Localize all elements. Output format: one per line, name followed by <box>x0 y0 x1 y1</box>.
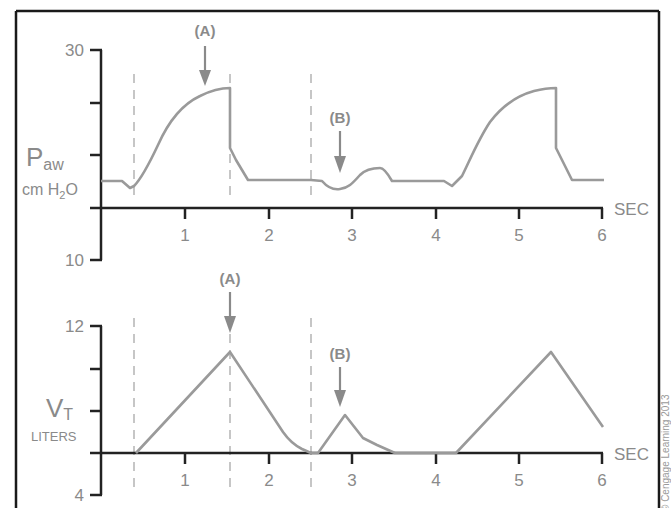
arrow-down-icon <box>334 156 346 173</box>
pressure-y-tick-10: 10 <box>65 251 84 270</box>
copyright-credit: © Cengage Learning 2013 <box>660 394 671 508</box>
phase-dashed-lines <box>134 318 311 488</box>
svg-text:(B): (B) <box>330 345 351 362</box>
svg-text:LITERS: LITERS <box>31 429 77 444</box>
pressure-annotation-a: (A) <box>195 22 216 86</box>
pressure-annotation-b: (B) <box>330 109 351 173</box>
x-tick-2: 2 <box>264 226 273 245</box>
volume-y-axis <box>90 326 102 495</box>
pressure-x-axis-label: SEC <box>614 200 649 219</box>
pressure-y-label: Paw cm H2O <box>22 142 78 201</box>
pressure-x-axis <box>90 208 603 219</box>
pressure-y-axis <box>90 50 102 260</box>
volume-y-tick-12: 12 <box>65 317 84 336</box>
x-tick-1: 1 <box>180 226 189 245</box>
svg-text:(B): (B) <box>330 109 351 126</box>
volume-y-label: VT LITERS <box>31 393 77 444</box>
ventilator-waveforms-figure: 30 10 1 2 3 4 5 6 SEC Paw cm H2O (A) (B) <box>0 0 671 508</box>
volume-trace <box>136 352 603 453</box>
svg-text:VT: VT <box>46 393 73 423</box>
pressure-trace <box>101 88 604 189</box>
svg-text:cm H2O: cm H2O <box>22 181 78 201</box>
arrow-down-icon <box>334 390 346 407</box>
x-tick-4: 4 <box>431 471 440 490</box>
x-tick-4: 4 <box>431 226 440 245</box>
volume-chart: 12 4 1 2 3 4 5 6 SEC VT LITERS (A) (B) <box>31 270 649 505</box>
volume-x-tick-labels: 1 2 3 4 5 6 <box>180 471 606 490</box>
volume-x-axis <box>90 453 603 464</box>
figure-frame <box>16 11 659 508</box>
x-tick-5: 5 <box>514 471 523 490</box>
x-tick-6: 6 <box>597 226 606 245</box>
pressure-chart: 30 10 1 2 3 4 5 6 SEC Paw cm H2O (A) (B) <box>22 22 649 270</box>
x-tick-1: 1 <box>180 471 189 490</box>
svg-text:Paw: Paw <box>26 142 64 173</box>
svg-text:(A): (A) <box>220 270 241 287</box>
x-tick-2: 2 <box>264 471 273 490</box>
volume-annotation-a: (A) <box>220 270 241 333</box>
pressure-y-tick-30: 30 <box>65 41 84 60</box>
x-tick-5: 5 <box>514 226 523 245</box>
x-tick-6: 6 <box>597 471 606 490</box>
svg-text:(A): (A) <box>195 22 216 39</box>
volume-annotation-b: (B) <box>330 345 351 407</box>
x-tick-3: 3 <box>347 226 356 245</box>
x-tick-3: 3 <box>347 471 356 490</box>
arrow-down-icon <box>199 70 211 86</box>
pressure-x-tick-labels: 1 2 3 4 5 6 <box>180 226 606 245</box>
volume-x-axis-label: SEC <box>614 445 649 464</box>
arrow-down-icon <box>224 316 236 333</box>
volume-y-tick-4: 4 <box>75 486 84 505</box>
